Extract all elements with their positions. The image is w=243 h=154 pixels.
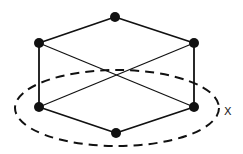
node-lower-right [189,102,199,112]
edge-lower-left-bottom [39,107,116,133]
node-upper-left [34,38,44,48]
edge-top-upper-right [115,17,194,43]
edge-top-upper-left [39,17,115,43]
edge-lower-right-bottom [116,107,194,133]
node-upper-right [189,38,199,48]
node-top [110,12,120,22]
node-bottom [111,128,121,138]
set-label-x: X [224,105,232,118]
lattice-diagram: X [0,0,243,154]
node-lower-left [34,102,44,112]
